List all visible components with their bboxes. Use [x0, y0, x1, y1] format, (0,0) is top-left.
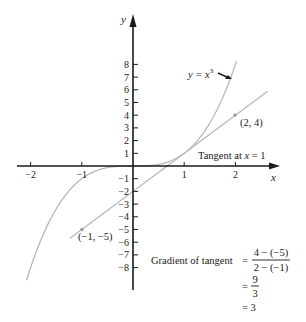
cubic-curve	[27, 61, 237, 280]
y-tick-label: 3	[124, 122, 129, 133]
y-tick-label: 8	[124, 59, 129, 70]
y-tick-label: 1	[124, 148, 129, 159]
point-neg1-neg5-label: (−1, −5)	[78, 231, 113, 243]
x-tick-label: 2	[233, 169, 238, 180]
y-tick-label: 5	[124, 97, 129, 108]
y-axis-label: y	[120, 13, 126, 25]
gradient-label: Gradient of tangent	[151, 255, 233, 266]
curve-label: y = x3	[187, 67, 214, 80]
point-2-4	[233, 113, 237, 117]
gradient-eq1: =	[242, 255, 248, 266]
gradient-frac2-den: 3	[252, 288, 257, 299]
y-tick-label: −5	[118, 224, 129, 235]
gradient-frac1-den: 2 − (−1)	[254, 262, 289, 274]
y-axis-arrow-icon	[130, 14, 137, 27]
x-axis-arrow-icon	[269, 163, 280, 170]
y-tick-label: 4	[124, 110, 129, 121]
point-2-4-label: (2, 4)	[240, 117, 263, 129]
x-tick-label: −1	[76, 169, 87, 180]
gradient-eq2: =	[242, 281, 248, 292]
tangent-label: Tangent at x = 1	[198, 150, 266, 161]
y-tick-label: −2	[118, 186, 129, 197]
y-tick-label: 6	[124, 84, 129, 95]
y-tick-label: −1	[118, 173, 129, 184]
cubic-tangent-chart: −2−112 87654321−1−2−3−4−5−6−7−8 x y y = …	[0, 0, 306, 322]
tangent-line	[70, 91, 268, 238]
y-tick-label: 7	[124, 72, 129, 83]
y-tick-label: −7	[118, 249, 129, 260]
gradient-frac1-num: 4 − (−5)	[254, 247, 289, 259]
y-tick-label: −4	[118, 211, 129, 222]
x-ticks: −2−112	[25, 162, 238, 180]
x-axis-label: x	[270, 171, 276, 183]
gradient-frac2-num: 9	[252, 274, 257, 285]
y-tick-label: −8	[118, 262, 129, 273]
y-tick-label: −6	[118, 237, 129, 248]
y-tick-label: 2	[124, 135, 129, 146]
gradient-result: = 3	[242, 302, 256, 313]
x-tick-label: 1	[182, 169, 187, 180]
x-tick-label: −2	[25, 169, 36, 180]
y-tick-label: −3	[118, 199, 129, 210]
